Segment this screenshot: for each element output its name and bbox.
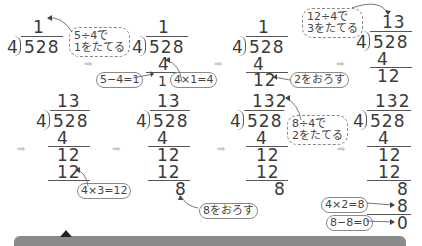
- bottom-bar: [14, 236, 406, 246]
- bar-marker-icon: [60, 230, 72, 237]
